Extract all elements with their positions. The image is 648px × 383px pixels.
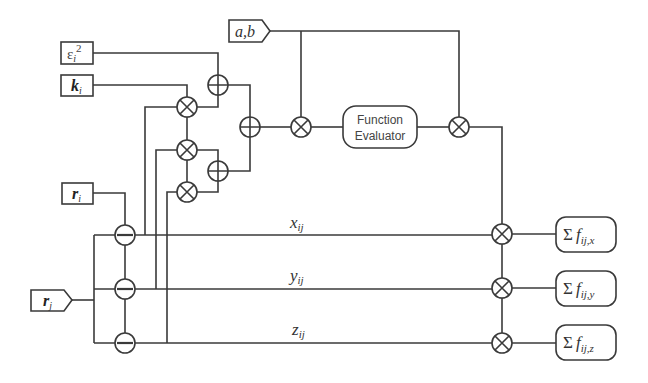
operators xyxy=(115,75,512,353)
label-yij: yij xyxy=(288,266,304,286)
wire-m3-a2 xyxy=(197,181,218,192)
input-ab: a,b xyxy=(229,20,270,42)
output-fz: Σfij,z xyxy=(556,325,616,360)
label-zij: zij xyxy=(291,320,305,340)
input-rj: rj xyxy=(31,290,72,311)
wire-a1-a3 xyxy=(228,85,250,117)
output-fx: Σfij,x xyxy=(556,217,616,252)
label-xij: xij xyxy=(289,213,304,233)
multiply-icon xyxy=(492,224,512,244)
subtract-icon xyxy=(115,225,135,245)
wire-m2-a2 xyxy=(197,150,218,161)
wire-k xyxy=(93,85,187,97)
multiply-icon xyxy=(449,117,469,137)
dataflow-diagram: a,b εi2 ki ri rj xyxy=(0,0,648,383)
input-k: ki xyxy=(61,75,93,96)
wire-ri xyxy=(93,193,125,225)
input-eps: εi2 xyxy=(61,42,93,64)
wire-rj-branches xyxy=(94,235,115,343)
wire-eps xyxy=(93,53,218,75)
subtract-icon xyxy=(115,333,135,353)
multiply-icon xyxy=(492,333,512,353)
add-icon xyxy=(208,161,228,181)
multiply-icon xyxy=(492,278,512,298)
function-evaluator-line2: Evaluator xyxy=(355,129,406,143)
multiply-icon xyxy=(177,182,197,202)
wire-a2-a3 xyxy=(228,137,250,171)
wire-m1-a1 xyxy=(197,95,218,107)
multiply-icon xyxy=(291,117,311,137)
function-evaluator: Function Evaluator xyxy=(343,106,417,148)
wire-z-to-m3 xyxy=(167,192,177,343)
add-icon xyxy=(208,75,228,95)
multiply-icon xyxy=(177,97,197,117)
function-evaluator-line1: Function xyxy=(357,113,403,127)
output-fy: Σfij,y xyxy=(556,271,616,306)
multiply-icon xyxy=(177,140,197,160)
wire-ab-to-right-mult xyxy=(270,31,459,117)
add-icon xyxy=(240,117,260,137)
wires xyxy=(72,31,556,343)
wire-m5-out xyxy=(469,127,502,224)
input-ab-label: a,b xyxy=(235,23,255,40)
wire-x-to-m1 xyxy=(145,107,177,235)
input-ri: ri xyxy=(62,183,93,204)
subtract-icon xyxy=(115,279,135,299)
